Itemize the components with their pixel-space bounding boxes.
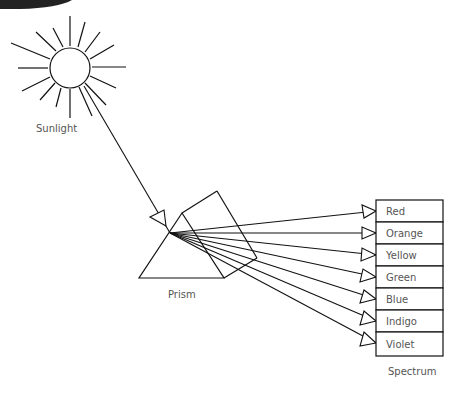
prism-diagram: Sunlight Prism [0, 0, 463, 401]
ray-arrowheads [360, 205, 376, 346]
incoming-ray [84, 86, 170, 233]
dispersed-rays [170, 211, 376, 343]
prism-label: Prism [168, 289, 196, 300]
corner-shape [0, 0, 72, 9]
prism-shape [139, 191, 257, 278]
band-red: Red [386, 206, 405, 217]
sun-icon [11, 16, 126, 118]
band-green: Green [386, 272, 416, 283]
sunlight-label: Sunlight [36, 123, 77, 134]
band-blue: Blue [386, 294, 408, 305]
band-orange: Orange [386, 228, 423, 239]
spectrum-label: Spectrum [388, 366, 436, 377]
band-yellow: Yellow [385, 250, 417, 261]
band-indigo: Indigo [386, 316, 417, 327]
band-violet: Violet [386, 339, 414, 350]
